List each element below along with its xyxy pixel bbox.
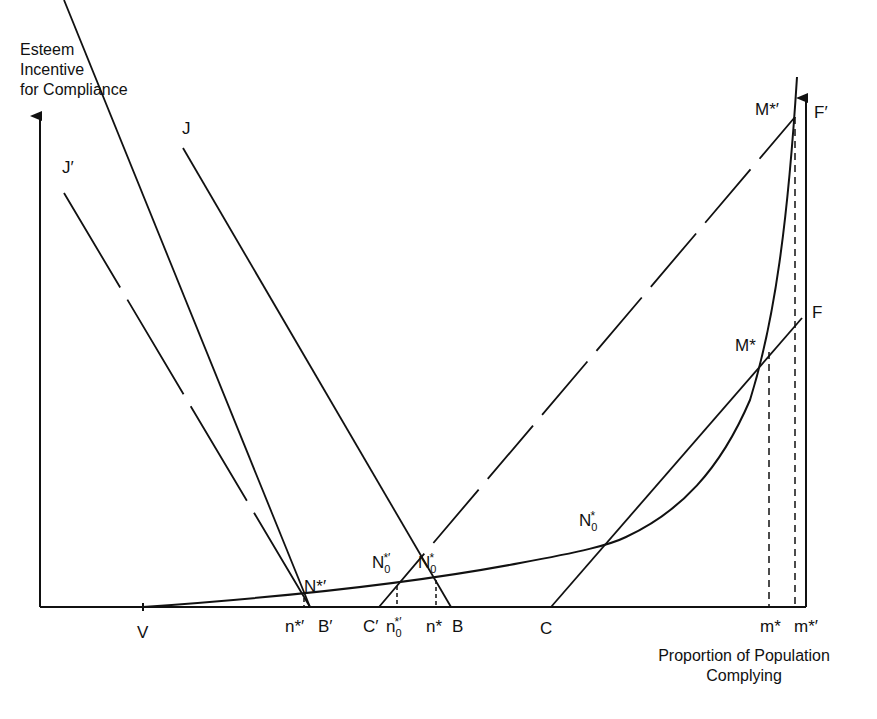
tick-n0-star-prime: n0*′ <box>386 617 402 638</box>
f-line <box>551 318 802 607</box>
diagram-canvas <box>0 0 877 719</box>
tick-c-prime: C′ <box>363 617 378 637</box>
label-n0-star-prime: N0*′ <box>372 553 390 574</box>
tick-b-prime: B′ <box>318 617 333 637</box>
label-j-prime: J′ <box>62 158 74 178</box>
n0-star-prime-sup: *′ <box>383 551 390 565</box>
y-axis-label-line-1: Esteem <box>20 40 128 60</box>
tick-v: V <box>137 623 148 643</box>
x-axis-label-line-1: Proportion of Population <box>628 646 860 666</box>
tick-m-star: m* <box>760 617 781 637</box>
label-m-star: M* <box>735 336 756 356</box>
esteem-curve <box>143 77 797 607</box>
n0-star-sup: * <box>590 509 595 523</box>
esteem-compliance-diagram: Esteem Incentive for Compliance Proporti… <box>0 0 877 719</box>
f-prime-line <box>379 117 795 607</box>
label-f-prime: F′ <box>814 103 828 123</box>
label-n0-star-right: N0* <box>418 553 434 574</box>
label-j: J <box>182 119 191 139</box>
label-f: F <box>812 303 822 323</box>
tick-n-star-prime: n*′ <box>285 617 304 637</box>
y-axis-label-line-2: Incentive <box>20 60 128 80</box>
label-n0-star: N0* <box>579 511 595 532</box>
x-axis-label: Proportion of Population Complying <box>628 646 860 686</box>
tick-c: C <box>540 619 552 639</box>
tick-n-star: n* <box>426 617 442 637</box>
label-n-star-prime-point: N*′ <box>304 577 326 597</box>
j-prime-line-dashed <box>64 193 310 607</box>
tick-m-star-prime: m*′ <box>794 617 818 637</box>
x-axis-label-line-2: Complying <box>628 666 860 686</box>
y-axis-label: Esteem Incentive for Compliance <box>20 40 128 100</box>
y-axis-label-line-3: for Compliance <box>20 80 128 100</box>
label-m-star-prime: M*′ <box>755 100 779 120</box>
j-line <box>183 148 451 607</box>
n0-star-right-sup: * <box>429 551 434 565</box>
tick-b: B <box>452 617 463 637</box>
n0-star-prime-tick-sup: *′ <box>395 615 402 629</box>
